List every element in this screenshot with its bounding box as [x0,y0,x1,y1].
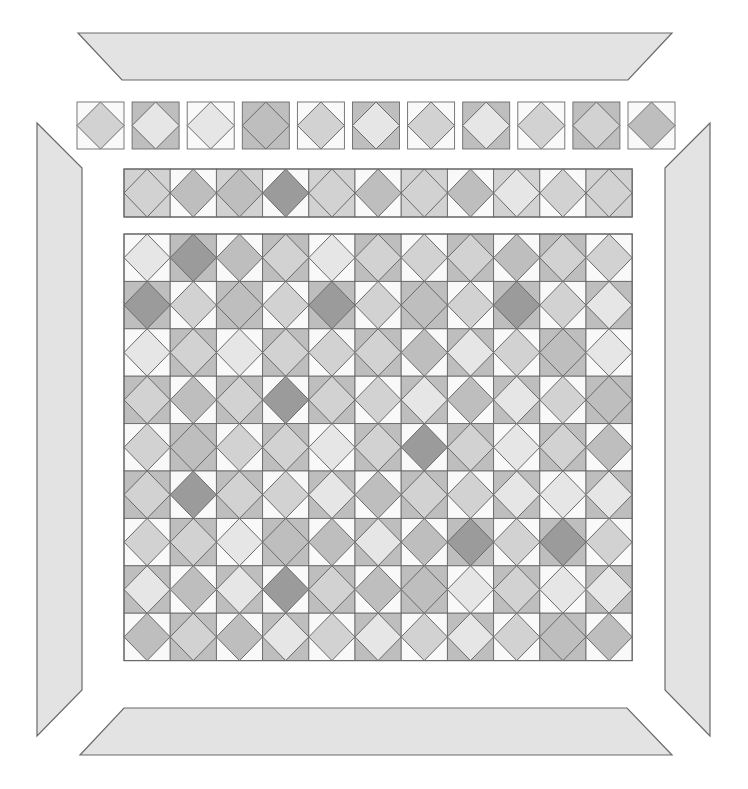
loose-square-block [463,102,510,149]
strip-block [124,169,170,217]
grid-block [309,329,355,376]
grid-block [447,281,493,328]
grid-block [355,613,401,660]
grid-block [170,566,216,613]
loose-square-block [187,102,234,149]
grid-block [540,234,586,281]
grid-block [170,234,216,281]
grid-block [540,566,586,613]
grid-block [586,376,632,423]
loose-square-block [77,102,124,149]
grid-block [263,329,309,376]
grid-block [309,471,355,518]
grid-block [494,329,540,376]
strip-block [263,169,309,217]
grid-block [124,376,170,423]
grid-block [586,471,632,518]
grid-block [309,613,355,660]
right-border-piece [665,123,710,736]
grid-block [216,376,262,423]
grid-block [309,281,355,328]
grid-block [586,281,632,328]
grid-block [586,424,632,471]
grid-block [263,376,309,423]
grid-block [124,234,170,281]
grid-block [494,281,540,328]
grid-block [401,566,447,613]
grid-block [586,518,632,565]
grid-block [447,234,493,281]
grid-block [447,376,493,423]
block-strip [124,169,632,217]
grid-block [170,613,216,660]
loose-square-block [573,102,620,149]
grid-block [494,424,540,471]
grid-block [494,376,540,423]
strip-block [170,169,216,217]
grid-block [355,518,401,565]
grid-block [309,234,355,281]
grid-block [216,281,262,328]
grid-block [494,471,540,518]
bottom-border-piece [80,708,672,755]
grid-block [447,613,493,660]
grid-block [124,281,170,328]
grid-block [216,613,262,660]
left-border-piece [37,123,82,736]
grid-block [216,566,262,613]
grid-block [124,471,170,518]
grid-block [494,518,540,565]
grid-block [586,613,632,660]
grid-block [263,471,309,518]
grid-block [540,329,586,376]
strip-block [355,169,401,217]
loose-square-block [297,102,344,149]
grid-block [216,424,262,471]
grid-block [216,234,262,281]
grid-block [309,424,355,471]
grid-block [401,376,447,423]
grid-block [447,518,493,565]
strip-block [401,169,447,217]
loose-square-block [242,102,289,149]
grid-block [447,471,493,518]
grid-block [309,376,355,423]
grid-block [355,424,401,471]
grid-block [170,376,216,423]
grid-block [540,518,586,565]
strip-block [309,169,355,217]
grid-block [309,566,355,613]
grid-block [263,281,309,328]
grid-block [447,329,493,376]
strip-block [494,169,540,217]
top-border-piece [78,33,672,80]
grid-block [401,471,447,518]
grid-block [540,281,586,328]
grid-block [401,281,447,328]
grid-block [494,234,540,281]
grid-block [309,518,355,565]
grid-block [355,281,401,328]
grid-block [355,566,401,613]
strip-block [586,169,632,217]
grid-block [170,329,216,376]
grid-block [263,613,309,660]
grid-block [124,613,170,660]
grid-block [124,566,170,613]
grid-block [586,566,632,613]
grid-block [401,234,447,281]
grid-block [540,471,586,518]
grid-block [447,566,493,613]
grid-block [586,234,632,281]
grid-block [355,376,401,423]
grid-block [355,329,401,376]
grid-block [401,613,447,660]
grid-block [355,471,401,518]
grid-block [263,424,309,471]
grid-block [124,424,170,471]
loose-square-block [628,102,675,149]
grid-block [170,281,216,328]
grid-block [263,234,309,281]
quilt-diagram [0,0,748,789]
grid-block [401,424,447,471]
